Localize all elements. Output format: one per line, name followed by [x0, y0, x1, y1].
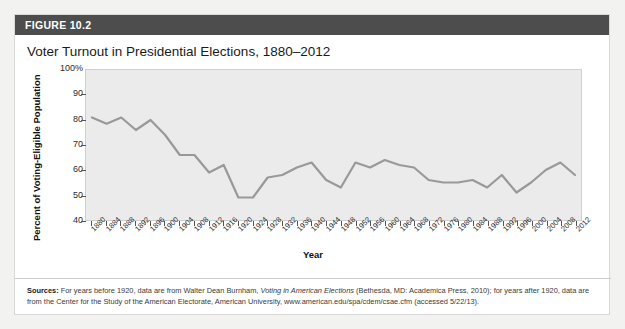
y-tick-label: 40 — [49, 215, 83, 225]
figure-card: FIGURE 10.2 Voter Turnout in Presidentia… — [14, 14, 610, 315]
sources-citation-title: Voting in American Elections — [260, 286, 354, 295]
page-background: FIGURE 10.2 Voter Turnout in Presidentia… — [0, 0, 625, 329]
y-tick-label: 60 — [49, 164, 83, 174]
y-tick-mark — [81, 221, 86, 222]
sources-text-1: For years before 1920, data are from Wal… — [59, 286, 261, 295]
y-tick-label: 100% — [49, 63, 83, 73]
y-axis-tick-labels: 405060708090100% — [43, 63, 83, 227]
figure-number-label: FIGURE 10.2 — [25, 19, 91, 31]
turnout-line-series — [86, 70, 581, 220]
y-tick-label: 80 — [49, 114, 83, 124]
chart-container: Percent of Voting-Eligible Population 40… — [15, 63, 611, 259]
sources-note: Sources: For years before 1920, data are… — [15, 278, 611, 314]
y-tick-mark — [81, 196, 86, 197]
y-axis-title: Percent of Voting-Eligible Population — [31, 81, 42, 241]
figure-title: Voter Turnout in Presidential Elections,… — [15, 35, 609, 63]
y-tick-label: 90 — [49, 88, 83, 98]
y-tick-mark — [81, 94, 86, 95]
x-axis-title: Year — [15, 249, 611, 260]
y-tick-label: 50 — [49, 190, 83, 200]
sources-label: Sources: — [27, 286, 59, 295]
y-tick-mark — [81, 120, 86, 121]
y-tick-mark — [81, 170, 86, 171]
y-tick-label: 70 — [49, 139, 83, 149]
figure-header-bar: FIGURE 10.2 — [15, 15, 609, 35]
y-tick-mark — [81, 145, 86, 146]
plot-area — [85, 69, 582, 221]
